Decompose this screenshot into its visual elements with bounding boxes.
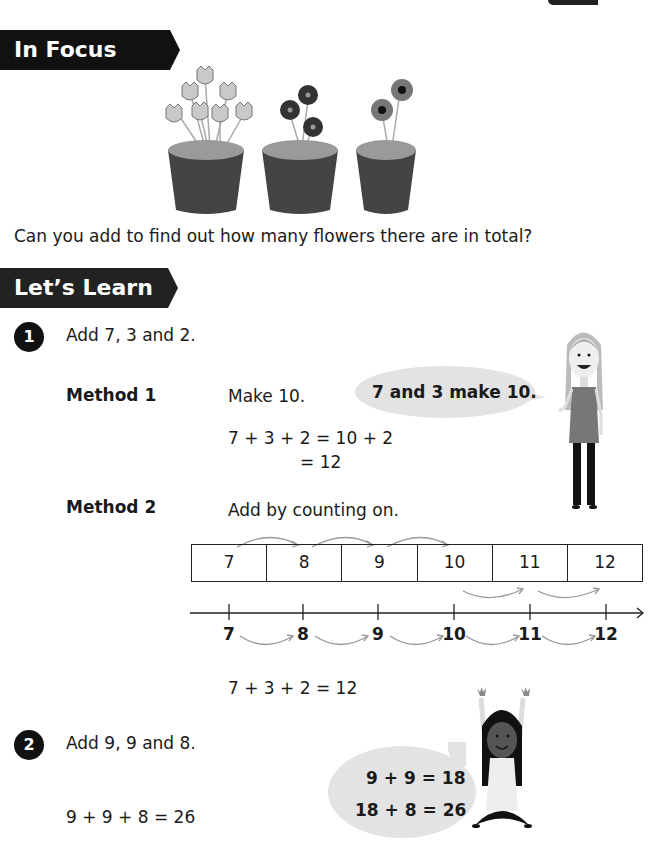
number-line-label: 8 — [288, 624, 318, 644]
method-1-equation-line1: 7 + 3 + 2 = 10 + 2 — [228, 428, 393, 448]
number-line-label: 12 — [591, 624, 621, 644]
method-1-label: Method 1 — [66, 385, 156, 405]
question-1-badge: 1 — [14, 322, 44, 352]
question-2-badge: 2 — [14, 730, 44, 760]
girl-cheering-illustration — [462, 686, 542, 836]
in-focus-banner: In Focus — [0, 30, 170, 70]
question-1-prompt: Add 7, 3 and 2. — [66, 325, 196, 345]
number-line-label: 10 — [439, 624, 469, 644]
corner-decoration — [548, 0, 598, 5]
method-2-label: Method 2 — [66, 497, 156, 517]
number-line-label: 11 — [515, 624, 545, 644]
strip-cell: 9 — [342, 545, 417, 581]
in-focus-question: Can you add to find out how many flowers… — [14, 226, 532, 246]
girl-character-illustration — [555, 325, 615, 515]
method-1-instruction: Make 10. — [228, 386, 305, 406]
method-2-instruction: Add by counting on. — [228, 500, 399, 520]
number-line — [185, 598, 650, 668]
number-line-label: 7 — [214, 624, 244, 644]
number-line-label: 9 — [363, 624, 393, 644]
method-2-result: 7 + 3 + 2 = 12 — [228, 678, 357, 698]
lets-learn-banner: Let’s Learn — [0, 268, 168, 308]
method-1-equation-line2: = 12 — [300, 452, 341, 472]
strip-cell: 12 — [568, 545, 642, 581]
strip-cell: 7 — [192, 545, 267, 581]
flower-pots-illustration — [150, 62, 430, 217]
number-strip: 7 8 9 10 11 12 — [191, 544, 643, 582]
speech-text-line-1: 9 + 9 = 18 — [366, 768, 465, 788]
question-2-prompt: Add 9, 9 and 8. — [66, 733, 196, 753]
strip-cell: 8 — [267, 545, 342, 581]
speech-text-method-1: 7 and 3 make 10. — [372, 382, 537, 402]
strip-cell: 10 — [418, 545, 493, 581]
pots — [168, 140, 416, 214]
speech-text-line-2: 18 + 8 = 26 — [355, 800, 466, 820]
strip-cell: 11 — [493, 545, 568, 581]
question-2-result: 9 + 9 + 8 = 26 — [66, 807, 195, 827]
